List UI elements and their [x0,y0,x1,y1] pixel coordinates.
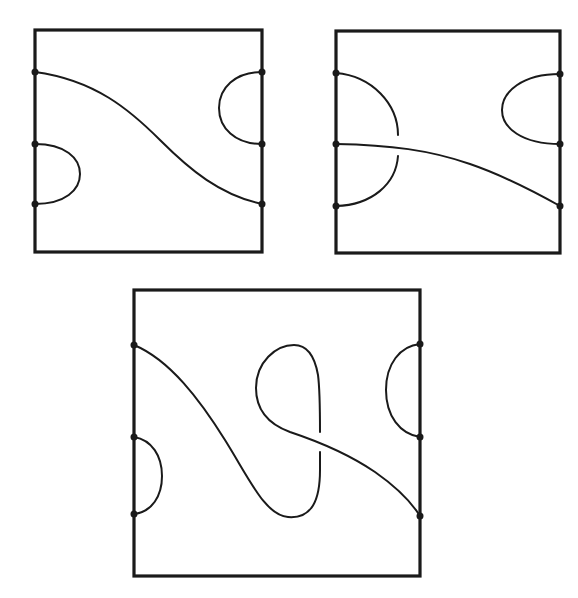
right-cap-arc [386,344,420,437]
right-cap-arc [502,74,560,144]
endpoint-dot [557,141,564,148]
panel-frame [134,290,420,576]
panel-top-right [333,31,564,253]
panel-top-left [32,30,266,252]
left-cap-arc [35,144,80,204]
looped-strand-upper [256,345,420,516]
right-cap-arc [219,72,262,144]
endpoint-dot [131,511,138,518]
endpoint-dot [32,201,39,208]
endpoint-dot [557,203,564,210]
tangle-diagram-figure [0,0,578,598]
endpoint-dot [333,203,340,210]
endpoint-dot [417,513,424,520]
diagonal-strand [35,72,262,204]
endpoint-dot [259,201,266,208]
over-strand [336,144,560,206]
endpoint-dot [333,141,340,148]
panel-frame [336,31,560,253]
endpoint-dot [417,341,424,348]
panel-bottom [131,290,424,576]
endpoint-dot [333,70,340,77]
endpoint-dot [32,69,39,76]
endpoint-dot [259,69,266,76]
left-cap-arc [134,437,162,514]
endpoint-dot [259,141,266,148]
looped-strand-lower [134,345,320,517]
left-cap-arc-upper [336,73,398,135]
endpoint-dot [131,434,138,441]
endpoint-dot [417,434,424,441]
endpoint-dot [557,71,564,78]
endpoint-dot [131,342,138,349]
panel-frame [35,30,262,252]
left-cap-arc-lower [336,156,398,206]
endpoint-dot [32,141,39,148]
